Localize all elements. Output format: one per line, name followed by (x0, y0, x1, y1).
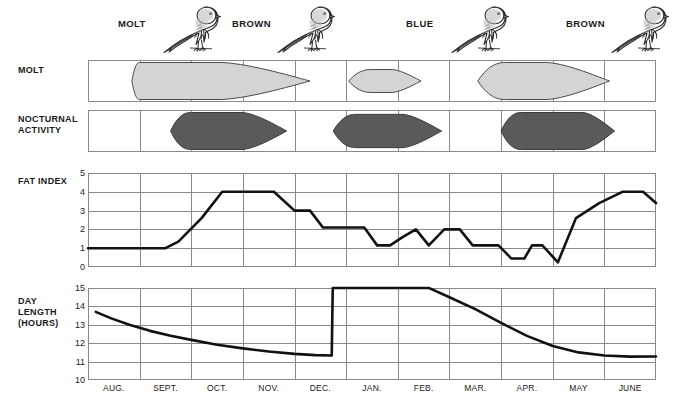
row-label-nocturnal-line2: ACTIVITY (18, 125, 78, 136)
day-length-tick-15: 15 (67, 284, 85, 293)
month-label-nov: NOV. (243, 383, 295, 393)
row-label-nocturnal-line1: NOCTURNAL (18, 114, 78, 125)
fat-index-line (88, 192, 656, 262)
month-label-aug: AUG. (88, 383, 140, 393)
bird-plumage-label-2: BLUE (406, 18, 433, 29)
day-length-tick-13: 13 (67, 321, 85, 330)
nocturnal-activity-svg (88, 110, 656, 152)
molt-band-period-1 (349, 70, 421, 93)
bird-plumage-label-1: BROWN (232, 18, 271, 29)
bird-plumage-label-3: BROWN (566, 18, 605, 29)
row-label-day-line2: LENGTH (18, 307, 59, 318)
molt-band-svg (88, 60, 656, 102)
day-length-line (96, 288, 656, 357)
month-label-may: MAY (553, 383, 605, 393)
bird-illustration-row: MOLT (0, 0, 680, 62)
nocturnal-activity-band-period-2 (501, 112, 615, 149)
day-length-tick-14: 14 (67, 302, 85, 311)
bird-plumage-label-0: MOLT (118, 18, 146, 29)
fat-index-tick-4: 4 (71, 188, 85, 197)
molt-band-period-0 (132, 62, 310, 99)
fat-index-y-axis: 543210 (72, 170, 88, 270)
month-label-dec: DEC. (295, 383, 347, 393)
day-length-tick-11: 11 (67, 358, 85, 367)
month-label-mar: MAR. (449, 383, 501, 393)
fat-index-tick-0: 0 (71, 263, 85, 272)
bird-icon (160, 2, 222, 60)
row-label-molt-text: MOLT (18, 65, 44, 75)
figure-root: MOLT NOCTURNAL ACTIVITY FAT INDEX DAY LE… (0, 0, 680, 407)
month-label-oct: OCT. (191, 383, 243, 393)
row-label-molt: MOLT (18, 65, 44, 76)
bird-icon (448, 2, 510, 60)
month-axis: AUG.SEPT.OCT.NOV.DEC.JAN.FEB.MAR.APR.MAY… (88, 383, 656, 397)
month-label-jan: JAN. (346, 383, 398, 393)
month-label-apr: APR. (501, 383, 553, 393)
nocturnal-activity-band-period-1 (333, 114, 441, 147)
fat-index-chart (88, 173, 656, 267)
bird-icon (274, 2, 336, 60)
bird-icon (608, 2, 670, 60)
nocturnal-activity-band-period-0 (171, 112, 287, 149)
day-length-svg (88, 288, 656, 380)
day-length-chart (88, 288, 656, 380)
fat-index-tick-5: 5 (71, 169, 85, 178)
nocturnal-activity-chart (88, 110, 656, 152)
fat-index-svg (88, 173, 656, 267)
molt-band-period-2 (478, 62, 610, 99)
month-label-sept: SEPT. (140, 383, 192, 393)
molt-band-chart (88, 60, 656, 102)
row-label-nocturnal-activity: NOCTURNAL ACTIVITY (18, 114, 78, 136)
row-label-day-length: DAY LENGTH (HOURS) (18, 296, 59, 329)
row-label-fat-index-text: FAT INDEX (18, 176, 67, 186)
row-label-day-line1: DAY (18, 296, 59, 307)
row-label-fat-index: FAT INDEX (18, 176, 67, 187)
day-length-y-axis: 151413121110 (68, 285, 88, 385)
day-length-tick-12: 12 (67, 339, 85, 348)
month-label-june: JUNE (604, 383, 656, 393)
day-length-tick-10: 10 (67, 376, 85, 385)
fat-index-tick-2: 2 (71, 225, 85, 234)
row-label-day-line3: (HOURS) (18, 318, 59, 329)
fat-index-tick-3: 3 (71, 207, 85, 216)
fat-index-tick-1: 1 (71, 244, 85, 253)
month-label-feb: FEB. (398, 383, 450, 393)
